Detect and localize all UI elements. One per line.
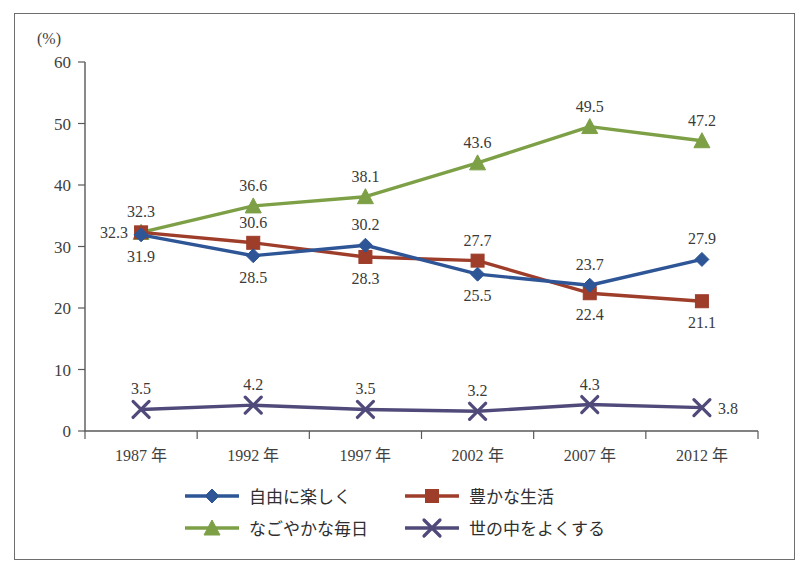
x-axis-category-label: 2012 年	[676, 447, 728, 464]
line-chart-svg: 0102030405060(%)1987 年1992 年1997 年2002 年…	[0, 0, 807, 576]
legend: 自由に楽しく豊かな生活なごやかな毎日世の中をよくする	[185, 488, 605, 539]
plot-area: 0102030405060(%)1987 年1992 年1997 年2002 年…	[0, 0, 807, 576]
marker-square	[695, 295, 708, 308]
y-axis-tick-label: 10	[54, 361, 71, 380]
data-point-label: 31.9	[127, 248, 155, 265]
series-2	[135, 226, 709, 308]
data-point-label: 28.3	[351, 270, 379, 287]
data-point-label: 28.5	[239, 269, 267, 286]
marker-diamond	[695, 252, 709, 266]
data-point-label: 49.5	[576, 98, 604, 115]
legend-item-2[interactable]: 豊かな生活	[405, 488, 554, 507]
y-axis-tick-label: 20	[54, 299, 71, 318]
data-point-label: 47.2	[688, 112, 716, 129]
x-axis-category-label: 1992 年	[227, 447, 279, 464]
axis-lines	[85, 62, 758, 431]
x-axis-category-label: 2007 年	[564, 447, 616, 464]
marker-diamond	[471, 267, 485, 281]
series-1	[134, 228, 709, 292]
data-point-label: 38.1	[351, 168, 379, 185]
data-point-label: 3.5	[355, 380, 375, 397]
data-point-label: 30.2	[351, 216, 379, 233]
data-point-label: 27.7	[464, 232, 492, 249]
legend-label: 自由に楽しく	[249, 488, 351, 507]
marker-square	[247, 236, 260, 249]
legend-item-4[interactable]: 世の中をよくする	[405, 520, 605, 539]
x-axis-category-label: 2002 年	[452, 447, 504, 464]
data-point-label: 25.5	[464, 287, 492, 304]
data-point-label: 23.7	[576, 256, 604, 273]
y-axis-tick-label: 0	[63, 422, 72, 441]
x-axis-category-label: 1987 年	[115, 447, 167, 464]
data-point-label: 27.9	[688, 230, 716, 247]
marker-square	[471, 254, 484, 267]
legend-label: 世の中をよくする	[469, 520, 605, 539]
marker-diamond	[246, 249, 260, 263]
data-point-label: 22.4	[576, 306, 604, 323]
y-axis-tick-label: 60	[54, 53, 71, 72]
series-line	[141, 232, 702, 301]
series-line	[141, 127, 702, 233]
series-3	[133, 119, 710, 240]
y-axis-tick-label: 30	[54, 238, 71, 257]
data-point-label: 4.2	[243, 376, 263, 393]
data-point-label: 36.6	[239, 177, 267, 194]
data-point-label: 3.5	[131, 380, 151, 397]
data-point-label: 3.8	[718, 400, 738, 417]
series-4	[133, 397, 710, 420]
series-line	[141, 405, 702, 412]
y-axis-tick-label: 40	[54, 176, 71, 195]
y-axis-tick-label: 50	[54, 115, 71, 134]
x-axis-category-label: 1997 年	[339, 447, 391, 464]
data-point-label: 3.2	[468, 382, 488, 399]
series-line	[141, 235, 702, 285]
legend-item-1[interactable]: 自由に楽しく	[185, 488, 351, 507]
marker-diamond	[205, 489, 219, 503]
marker-square	[426, 490, 439, 503]
data-point-label: 21.1	[688, 314, 716, 331]
data-point-label: 32.3	[100, 224, 128, 241]
data-point-label: 32.3	[127, 203, 155, 220]
legend-label: なごやかな毎日	[249, 520, 368, 539]
legend-label: 豊かな生活	[469, 488, 554, 507]
data-point-label: 43.6	[464, 134, 492, 151]
y-axis-unit-label: (%)	[37, 30, 61, 48]
legend-item-3[interactable]: なごやかな毎日	[185, 520, 368, 539]
chart-figure: 0102030405060(%)1987 年1992 年1997 年2002 年…	[0, 0, 807, 576]
data-point-label: 30.6	[239, 214, 267, 231]
data-point-label: 4.3	[580, 376, 600, 393]
